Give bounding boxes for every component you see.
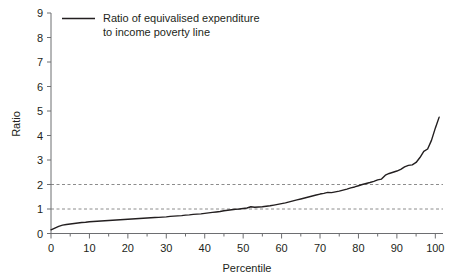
x-tick-label: 30 [160,242,172,254]
x-axis-title: Percentile [223,262,272,274]
x-tick-label: 60 [275,242,287,254]
y-tick-label: 4 [37,130,43,142]
y-tick-label: 1 [37,203,43,215]
expenditure-ratio-line-chart: 0123456789 Ratio 0102030405060708090100 … [0,0,456,280]
legend-label-line-1: Ratio of equivalised expenditure [103,12,260,24]
x-tick-label: 0 [48,242,54,254]
x-tick-label: 20 [122,242,134,254]
legend-label-line-2: to income poverty line [103,26,210,38]
y-axis-title: Ratio [10,111,22,137]
y-tick-label: 3 [37,154,43,166]
x-tick-label: 100 [426,242,444,254]
chart-background [0,0,456,280]
y-tick-label: 5 [37,105,43,117]
y-tick-label: 7 [37,56,43,68]
y-tick-label: 9 [37,7,43,19]
x-tick-label: 50 [237,242,249,254]
chart-container: 0123456789 Ratio 0102030405060708090100 … [0,0,456,280]
y-tick-label: 6 [37,81,43,93]
y-tick-label: 2 [37,179,43,191]
x-tick-label: 80 [352,242,364,254]
x-tick-label: 90 [391,242,403,254]
y-tick-label: 0 [37,228,43,240]
x-tick-label: 70 [314,242,326,254]
x-tick-label: 40 [199,242,211,254]
y-tick-label: 8 [37,32,43,44]
x-tick-label: 10 [83,242,95,254]
